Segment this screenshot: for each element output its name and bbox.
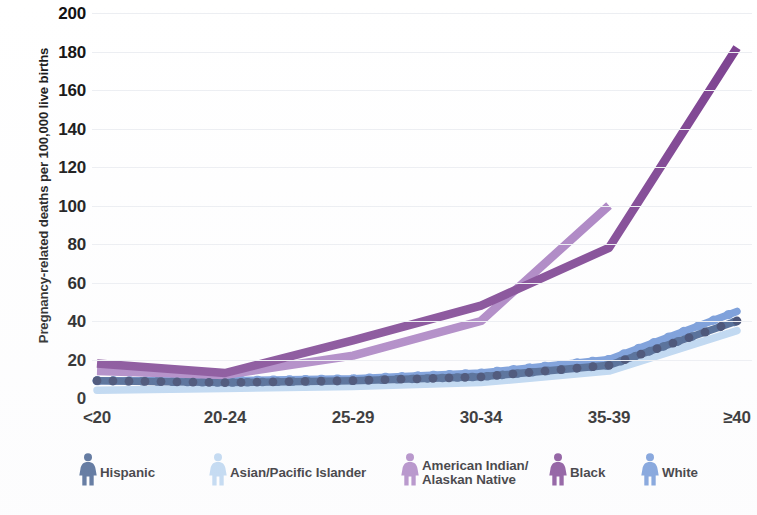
person-icon (548, 452, 568, 486)
y-axis-tick-20: 20 (67, 351, 86, 368)
data-point-marker (637, 350, 646, 359)
legend-item-white[interactable]: White (640, 452, 698, 486)
x-axis-tick-5: ≥40 (723, 408, 751, 428)
gridline (92, 52, 752, 53)
plot-area (92, 0, 757, 405)
x-axis-tick-labels: <2020-2425-2930-3435-39≥40 (0, 408, 757, 440)
data-point-marker (541, 367, 550, 376)
y-axis-tick-100: 100 (58, 197, 86, 214)
data-point-marker (429, 374, 438, 383)
data-point-marker (413, 374, 422, 383)
gridline (92, 90, 752, 91)
data-point-marker (125, 377, 134, 386)
data-point-marker (573, 364, 582, 373)
gridline (92, 167, 752, 168)
data-point-marker (221, 378, 230, 387)
legend-item-black[interactable]: Black (548, 452, 605, 486)
data-point-marker (445, 373, 454, 382)
data-point-marker (333, 377, 342, 386)
person-icon (208, 452, 228, 486)
gridline (92, 321, 752, 322)
data-point-marker (109, 377, 118, 386)
y-axis-tick-80: 80 (67, 236, 86, 253)
data-point-marker (525, 368, 534, 377)
gridline (92, 13, 752, 14)
x-axis-tick-1: 20-24 (204, 408, 246, 428)
data-point-marker (557, 365, 566, 374)
data-point-marker (701, 328, 710, 337)
y-axis-tick-120: 120 (58, 159, 86, 176)
x-axis-tick-2: 25-29 (332, 408, 374, 428)
data-point-marker (189, 378, 198, 387)
data-point-marker (381, 375, 390, 384)
legend-label-black: Black (570, 452, 605, 480)
y-axis-tick-200: 200 (58, 5, 86, 22)
gridline (92, 206, 752, 207)
data-point-marker (269, 378, 278, 387)
data-point-marker (237, 378, 246, 387)
legend-label-asian: Asian/Pacific Islander (230, 452, 366, 480)
chart-root: Pregnancy-related deaths per 100,000 liv… (0, 0, 757, 515)
series-american-indian-alaskan-native-line (97, 206, 609, 375)
data-point-marker (157, 377, 166, 386)
data-point-marker (605, 361, 614, 370)
data-point-marker (93, 376, 102, 385)
y-axis-tick-140: 140 (58, 120, 86, 137)
legend-item-american-indian[interactable]: American Indian/ Alaskan Native (400, 452, 528, 487)
y-axis-tick-40: 40 (67, 313, 86, 330)
data-point-marker (301, 377, 310, 386)
data-point-marker (477, 372, 486, 381)
person-icon (640, 452, 660, 486)
x-axis-tick-3: 30-34 (460, 408, 502, 428)
data-point-marker (717, 322, 726, 331)
person-icon (400, 452, 420, 486)
data-point-marker (365, 376, 374, 385)
data-point-marker (317, 377, 326, 386)
data-point-marker (253, 378, 262, 387)
data-point-marker (285, 377, 294, 386)
legend-item-asian[interactable]: Asian/Pacific Islander (208, 452, 366, 486)
legend-item-hispanic[interactable]: Hispanic (78, 452, 155, 486)
data-point-marker (205, 378, 214, 387)
person-icon (78, 452, 98, 486)
data-point-marker (509, 370, 518, 379)
data-point-marker (461, 373, 470, 382)
data-point-marker (493, 371, 502, 380)
chart-legend: HispanicAsian/Pacific IslanderAmerican I… (0, 452, 757, 515)
x-axis-tick-0: <20 (83, 408, 111, 428)
chart-canvas (92, 0, 757, 405)
y-axis-tick-60: 60 (67, 274, 86, 291)
data-point-marker (141, 377, 150, 386)
y-axis-tick-0: 0 (77, 390, 86, 407)
series-black-line (97, 48, 737, 373)
x-axis-tick-4: 35-39 (588, 408, 630, 428)
y-axis-tick-labels: 200180160140120100806040200 (0, 0, 92, 410)
y-axis-tick-180: 180 (58, 43, 86, 60)
gridline (92, 283, 752, 284)
data-point-marker (349, 376, 358, 385)
data-point-marker (653, 344, 662, 353)
data-point-marker (669, 339, 678, 348)
gridline (92, 129, 752, 130)
y-axis-tick-160: 160 (58, 82, 86, 99)
legend-label-american-indian: American Indian/ Alaskan Native (422, 452, 528, 487)
legend-label-white: White (662, 452, 698, 480)
legend-label-hispanic: Hispanic (100, 452, 155, 480)
data-point-marker (173, 378, 182, 387)
data-point-marker (397, 375, 406, 384)
data-point-marker (685, 333, 694, 342)
gridline (92, 360, 752, 361)
gridline (92, 244, 752, 245)
data-point-marker (589, 362, 598, 371)
